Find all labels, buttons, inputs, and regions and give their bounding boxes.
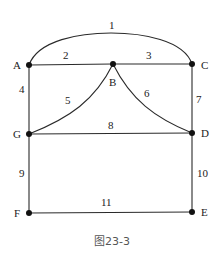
edge-label-9: 9 <box>19 167 25 179</box>
node-c <box>189 61 195 67</box>
edge-label-10: 10 <box>197 167 209 179</box>
edge-label-11: 11 <box>101 196 112 208</box>
node-a <box>26 62 32 68</box>
node-label-a: A <box>13 59 21 71</box>
graph-diagram: 1 2 3 4 5 6 7 8 9 10 11 A B C G D F E <box>0 0 224 259</box>
edge-label-4: 4 <box>19 83 25 95</box>
node-d <box>189 130 195 136</box>
edge-8-g-d <box>29 133 192 134</box>
edge-label-1: 1 <box>109 19 115 31</box>
edge-2-a-b <box>29 64 113 65</box>
edge-6-b-d-curve <box>113 64 192 133</box>
edge-label-7: 7 <box>196 93 202 105</box>
edge-label-3: 3 <box>146 49 152 61</box>
node-label-b: B <box>109 76 116 88</box>
node-label-g: G <box>13 128 21 140</box>
node-label-d: D <box>201 127 209 139</box>
node-label-f: F <box>14 207 20 219</box>
edge-label-8: 8 <box>108 119 114 131</box>
edge-label-5: 5 <box>65 94 71 106</box>
node-g <box>26 131 32 137</box>
node-label-e: E <box>201 206 208 218</box>
edge-11-f-e <box>29 212 192 213</box>
figure-caption: 图23-3 <box>0 232 224 248</box>
edge-1-a-c-arc <box>29 33 192 65</box>
edge-5-b-g-curve <box>29 64 113 134</box>
node-b <box>110 61 116 67</box>
edge-label-6: 6 <box>144 87 150 99</box>
node-e <box>189 209 195 215</box>
edge-label-2: 2 <box>63 49 69 61</box>
node-label-c: C <box>201 59 208 71</box>
node-f <box>26 210 32 216</box>
